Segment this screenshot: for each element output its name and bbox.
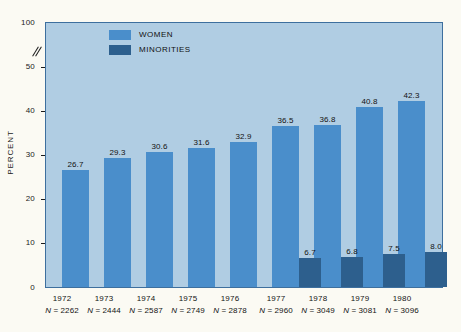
bar-minorities-1979 — [383, 254, 405, 287]
bar-women-1972 — [62, 170, 89, 287]
legend-label-minorities: MINORITIES — [139, 45, 191, 54]
y-tick-label-100: 100 — [9, 18, 35, 27]
bar-value-minorities-1979: 7.5 — [378, 244, 410, 253]
bar-value-women-1976: 32.9 — [227, 132, 260, 141]
bar-value-women-1975: 31.6 — [185, 138, 218, 147]
bar-women-1975 — [188, 148, 215, 287]
bar-value-women-1979: 40.8 — [353, 97, 386, 106]
bar-women-1976 — [230, 142, 257, 287]
legend-swatch-women-icon — [109, 30, 131, 40]
bar-value-women-1980: 42.3 — [395, 91, 428, 100]
bar-value-minorities-1977: 6.7 — [294, 248, 326, 257]
bar-value-women-1974: 30.6 — [143, 142, 176, 151]
y-tick-label-0: 0 — [9, 283, 35, 292]
y-tick-label-10: 10 — [9, 238, 35, 247]
bar-minorities-1978 — [341, 257, 363, 287]
bar-value-women-1977: 36.5 — [269, 116, 302, 125]
x-axis-year-1980: 1980 — [372, 294, 432, 303]
bar-minorities-1980 — [425, 252, 447, 287]
bar-value-women-1978: 36.8 — [311, 115, 344, 124]
legend: WOMEN MINORITIES — [109, 28, 191, 58]
bar-value-women-1973: 29.3 — [101, 148, 134, 157]
bar-minorities-1977 — [299, 258, 321, 287]
bar-value-women-1972: 26.7 — [59, 160, 92, 169]
bar-value-minorities-1978: 6.8 — [336, 247, 368, 256]
bar-value-minorities-1980: 8.0 — [420, 242, 452, 251]
legend-item-women: WOMEN — [109, 28, 191, 41]
bar-women-1974 — [146, 152, 173, 287]
bar-women-1973 — [104, 158, 131, 287]
plot-area: WOMEN MINORITIES 26.7 29.3 30.6 31.6 32.… — [45, 22, 443, 288]
legend-label-women: WOMEN — [139, 30, 173, 39]
figure-bar-chart: 100 50 40 30 20 10 0 PERCENT WOMEN MINOR… — [0, 0, 461, 332]
legend-item-minorities: MINORITIES — [109, 43, 191, 56]
x-axis-n-1980: N = 3096 — [372, 306, 432, 315]
y-tick-label-40: 40 — [9, 106, 35, 115]
y-tick-label-50: 50 — [9, 62, 35, 71]
bar-women-1977 — [272, 126, 299, 287]
y-axis-break-icon — [29, 43, 45, 57]
y-axis-title: PERCENT — [6, 121, 15, 185]
x-axis-group-1980: 1980 N = 3096 — [372, 294, 432, 315]
y-tick-label-20: 20 — [9, 194, 35, 203]
legend-swatch-minorities-icon — [109, 45, 131, 55]
